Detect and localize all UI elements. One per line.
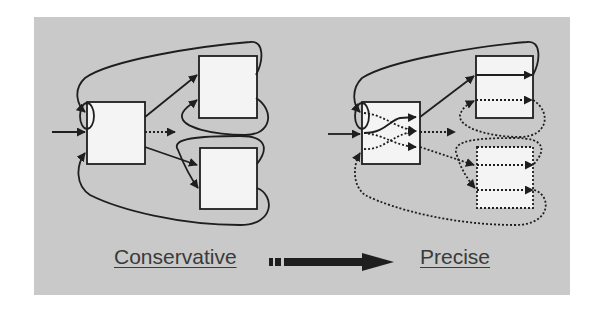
diagram-canvas — [0, 0, 594, 314]
upper-target-box-precise — [476, 56, 533, 118]
precise-label: Precise — [420, 245, 490, 269]
source-box — [87, 102, 145, 164]
lower-target-box-precise — [477, 147, 533, 208]
conservative-diagram — [52, 42, 269, 225]
transition-arrow — [269, 253, 394, 271]
upper-target-box — [199, 56, 257, 118]
lower-target-box — [200, 148, 257, 209]
precise-diagram — [328, 42, 546, 225]
conservative-label: Conservative — [114, 245, 237, 269]
